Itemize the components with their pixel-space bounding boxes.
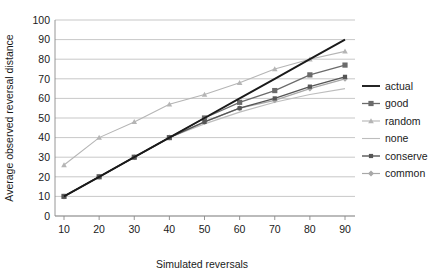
legend-label-random: random	[385, 115, 421, 127]
legend-swatch-marker-common	[368, 171, 374, 177]
x-tick-label-80: 80	[304, 223, 316, 235]
legend-item-good[interactable]: good	[362, 97, 409, 109]
legend-swatch-marker-good	[368, 101, 373, 106]
y-axis-tick-labels: 0102030405060708090100	[32, 14, 50, 222]
series-marker-conserve-70	[273, 96, 277, 100]
y-tick-label-20: 20	[38, 171, 50, 183]
series-marker-good-70	[272, 88, 277, 93]
series-line-none	[64, 89, 345, 197]
series-marker-conserve-90	[343, 75, 347, 79]
x-tick-label-10: 10	[58, 223, 70, 235]
x-tick-label-90: 90	[339, 223, 351, 235]
legend-item-conserve[interactable]: conserve	[362, 150, 428, 162]
y-axis-title: Average observed reversal distance	[3, 34, 15, 201]
x-axis-tick-labels: 102030405060708090	[58, 223, 351, 235]
legend-swatch-marker-conserve	[369, 154, 373, 158]
series-good	[61, 62, 347, 199]
legend-label-actual: actual	[385, 80, 413, 92]
legend-item-actual[interactable]: actual	[362, 80, 413, 92]
legend-label-good: good	[385, 97, 409, 109]
series-line-random	[64, 51, 345, 165]
y-tick-label-60: 60	[38, 92, 50, 104]
legend-label-conserve: conserve	[385, 150, 428, 162]
x-tick-label-20: 20	[93, 223, 105, 235]
legend-label-common: common	[385, 167, 425, 179]
x-tick-label-40: 40	[164, 223, 176, 235]
series-none	[64, 89, 345, 197]
x-tick-label-50: 50	[199, 223, 211, 235]
y-tick-label-0: 0	[44, 210, 50, 222]
legend: actualgoodrandomnoneconservecommon	[362, 80, 428, 180]
y-tick-label-80: 80	[38, 53, 50, 65]
y-tick-label-70: 70	[38, 73, 50, 85]
x-tick-label-60: 60	[234, 223, 246, 235]
legend-item-none[interactable]: none	[362, 132, 409, 144]
x-tick-label-70: 70	[269, 223, 281, 235]
line-chart: 0102030405060708090100 10203040506070809…	[0, 0, 432, 277]
y-tick-label-40: 40	[38, 131, 50, 143]
series-marker-conserve-50	[202, 120, 206, 124]
series-marker-good-90	[342, 62, 347, 67]
y-tick-label-90: 90	[38, 33, 50, 45]
series-marker-random-30	[131, 119, 137, 124]
series-marker-conserve-80	[308, 85, 312, 89]
legend-label-none: none	[385, 132, 409, 144]
series-random	[61, 49, 348, 168]
y-tick-label-10: 10	[38, 190, 50, 202]
y-tick-label-50: 50	[38, 112, 50, 124]
series-marker-random-90	[342, 49, 348, 54]
legend-item-random[interactable]: random	[362, 115, 421, 127]
y-tick-label-30: 30	[38, 151, 50, 163]
chart-container: 0102030405060708090100 10203040506070809…	[0, 0, 432, 277]
x-axis-title: Simulated reversals	[156, 258, 248, 270]
series-marker-good-80	[307, 72, 312, 77]
data-series-group	[61, 40, 348, 200]
x-tick-label-30: 30	[128, 223, 140, 235]
legend-item-common[interactable]: common	[362, 167, 425, 179]
series-marker-conserve-60	[238, 106, 242, 110]
y-tick-label-100: 100	[32, 14, 50, 26]
